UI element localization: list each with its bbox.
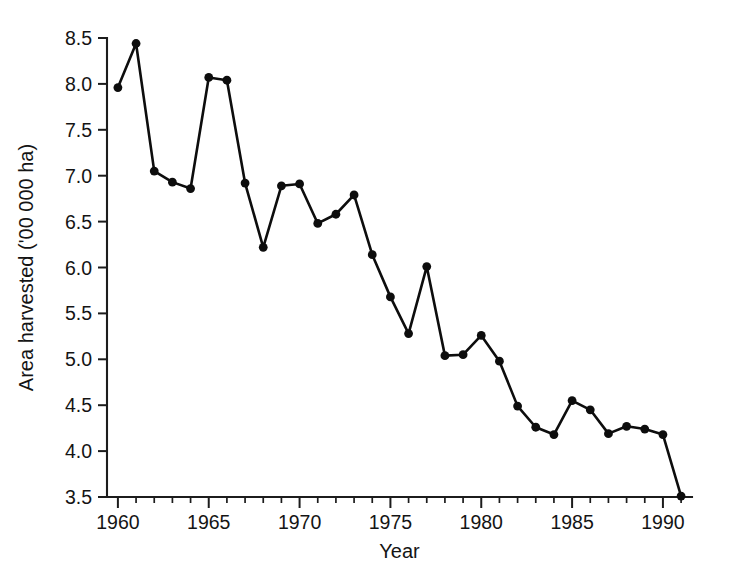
data-point [223, 76, 232, 85]
data-point [132, 39, 141, 48]
data-point [332, 210, 341, 219]
data-markers [114, 39, 686, 500]
data-point [186, 184, 195, 193]
x-axis: 1960196519701975198019851990 [96, 497, 685, 533]
x-axis-title: Year [379, 540, 420, 562]
y-tick-label: 6.0 [65, 257, 92, 279]
data-series-line [118, 44, 681, 497]
y-tick-label: 8.0 [65, 73, 92, 95]
data-point [150, 167, 159, 176]
data-point [114, 83, 123, 92]
y-tick-label: 5.5 [65, 302, 92, 324]
y-tick-label: 4.0 [65, 440, 92, 462]
y-tick-label: 6.5 [65, 211, 92, 233]
data-point [295, 180, 304, 189]
x-tick-label: 1965 [187, 511, 231, 533]
x-tick-label: 1985 [550, 511, 594, 533]
y-axis: 3.54.04.55.05.56.06.57.07.58.08.5 [65, 27, 107, 508]
data-point [659, 430, 668, 439]
data-point [404, 329, 413, 338]
x-tick-label: 1970 [278, 511, 322, 533]
x-tick-label: 1980 [460, 511, 504, 533]
data-point [604, 429, 613, 438]
data-point [677, 492, 686, 501]
data-point [586, 405, 595, 414]
data-point [495, 357, 504, 366]
x-tick-label: 1990 [641, 511, 685, 533]
data-point [386, 292, 395, 301]
y-tick-label: 3.5 [65, 486, 92, 508]
data-point [531, 423, 540, 432]
y-tick-label: 5.0 [65, 348, 92, 370]
data-point [241, 179, 250, 188]
x-tick-label: 1960 [96, 511, 140, 533]
data-point [441, 351, 450, 360]
line-chart: 3.54.04.55.05.56.06.57.07.58.08.51960196… [0, 0, 731, 578]
data-point [277, 181, 286, 190]
y-axis-title: Area harvested ('00 000 ha) [15, 144, 37, 391]
data-point [459, 350, 468, 359]
y-tick-label: 7.0 [65, 165, 92, 187]
y-tick-label: 8.5 [65, 27, 92, 49]
data-point [513, 402, 522, 411]
data-point [640, 425, 649, 434]
data-point [350, 191, 359, 200]
chart-figure: 3.54.04.55.05.56.06.57.07.58.08.51960196… [0, 0, 731, 578]
y-tick-label: 7.5 [65, 119, 92, 141]
data-point [259, 243, 268, 252]
data-point [550, 430, 559, 439]
data-point [477, 331, 486, 340]
data-point [622, 422, 631, 431]
data-point [368, 250, 377, 259]
data-point [422, 262, 431, 271]
x-tick-label: 1975 [369, 511, 413, 533]
data-point [168, 178, 177, 187]
data-point [568, 396, 577, 405]
data-point [204, 73, 213, 82]
data-point [313, 219, 322, 228]
y-tick-label: 4.5 [65, 394, 92, 416]
